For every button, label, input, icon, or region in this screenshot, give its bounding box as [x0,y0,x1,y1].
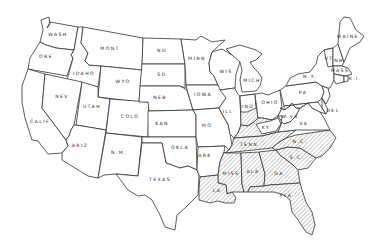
label-ky: KY [262,125,270,130]
label-mn: MINN [188,56,206,61]
label-tn: TENN [239,142,258,147]
state-me [338,17,364,62]
label-ms: MISS [223,171,240,176]
label-ut: UTAH [83,104,101,109]
label-vt: VT [325,56,334,61]
label-or: ORE [39,54,53,59]
label-az: ARIZ [72,143,88,148]
label-ny: N.Y. [303,74,317,79]
label-wv: W.VA [281,114,298,119]
label-co: COLO [121,114,139,119]
label-id: IDAHO [73,71,95,76]
label-ar: ARK [198,153,212,158]
state-nm [98,133,142,178]
label-wi: WIS [219,69,232,74]
label-ca: CALIF [30,119,50,124]
label-mo: MO [202,123,212,128]
label-ia: IOWA [194,92,212,97]
label-in: IND [242,104,255,109]
label-ks: KAN [155,121,169,126]
label-nh: NH [334,58,344,63]
label-ri: R.I. [349,76,362,81]
label-fl: FLA [280,193,293,198]
label-nc: N.C. [292,139,307,144]
label-me: MAINE [337,34,359,39]
label-nv: NEV [55,94,69,99]
label-sd: SD [157,72,166,77]
label-il: ILL [223,109,234,114]
us-map: WASH ORE CALIF IDAHO NEV MONT WYO UTAH A… [0,0,379,251]
label-wa: WASH [48,32,67,37]
label-ok: OKLA [171,145,189,150]
label-mt: MONT [100,46,119,51]
label-la: LA [213,188,222,193]
label-oh: OHIO [261,100,279,105]
state-wy [98,66,142,102]
state-in-top [240,94,256,112]
label-va: VA [300,121,309,126]
label-sc: S.C. [290,155,305,160]
label-nm: N.M. [111,150,127,155]
label-mi: MICH [243,78,261,83]
label-ne: NEB [153,95,167,100]
state-ri [344,76,348,82]
label-al: ALA [246,169,259,174]
label-wy: WYO [116,79,131,84]
label-de: DEL [326,108,339,113]
label-nd: ND [157,48,167,53]
label-pa: PA [299,90,307,95]
state-ct [334,74,344,84]
label-ma: MASS [331,68,350,73]
state-fl [248,183,315,235]
label-ga: GA [274,171,284,176]
label-tx: TEXAS [148,177,171,182]
